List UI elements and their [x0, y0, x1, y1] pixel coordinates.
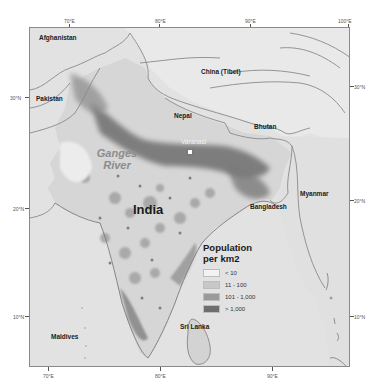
axis-tick	[160, 367, 161, 371]
legend-title-line1: Population	[203, 242, 255, 253]
river-label-line1: Ganges	[92, 147, 142, 159]
legend-label: 101 - 1,000	[225, 294, 255, 300]
legend-swatch	[203, 269, 220, 277]
legend-label: > 1,000	[225, 306, 245, 312]
river-label-line2: River	[92, 159, 142, 171]
axis-label-top-80e: 80°E	[155, 18, 166, 24]
axis-label-left-10n: 10°N	[13, 314, 24, 320]
legend-swatch	[203, 293, 220, 301]
axis-label-right-30n: 30°N	[354, 84, 365, 90]
map-shapes	[30, 28, 350, 367]
legend-title-line2: per km2	[203, 253, 255, 264]
label-ganges-river: Ganges River	[92, 147, 142, 171]
axis-label-bottom-90e: 90°E	[267, 373, 278, 379]
label-myanmar: Myanmar	[300, 190, 329, 197]
label-varanasi: Varanasi	[181, 138, 206, 145]
label-pakistan: Pakistan	[36, 95, 63, 102]
label-bangladesh: Bangladesh	[250, 203, 287, 210]
axis-tick	[272, 367, 273, 371]
axis-label-top-100e: 100°E	[338, 18, 352, 24]
axis-label-bottom-80e: 80°E	[155, 373, 166, 379]
legend: Population per km2 < 10 11 - 100 101 - 1…	[203, 242, 255, 314]
axis-label-right-10n: 10°N	[354, 314, 365, 320]
label-bhutan: Bhutan	[254, 123, 276, 130]
label-maldives: Maldives	[51, 333, 78, 340]
label-nepal: Nepal	[174, 112, 192, 119]
legend-item-lt10: < 10	[203, 267, 255, 278]
label-india: India	[133, 202, 163, 217]
axis-label-left-20n: 20°N	[13, 206, 24, 212]
map-frame	[29, 27, 350, 367]
city-marker-varanasi[interactable]	[187, 149, 193, 155]
axis-label-bottom-70e: 70°E	[43, 373, 54, 379]
legend-label: 11 - 100	[225, 282, 247, 288]
legend-item-gt1000: > 1,000	[203, 303, 255, 314]
axis-label-right-20n: 20°N	[354, 198, 365, 204]
legend-swatch	[203, 305, 220, 313]
label-afghanistan: Afghanistan	[39, 34, 77, 41]
label-sri-lanka: Sri Lanka	[180, 323, 209, 330]
legend-item-11-100: 11 - 100	[203, 279, 255, 290]
axis-tick	[48, 367, 49, 371]
legend-swatch	[203, 281, 220, 289]
axis-label-left-30n: 30°N	[10, 95, 21, 101]
legend-label: < 10	[225, 270, 237, 276]
label-china: China (Tibet)	[201, 68, 241, 75]
legend-item-101-1000: 101 - 1,000	[203, 291, 255, 302]
